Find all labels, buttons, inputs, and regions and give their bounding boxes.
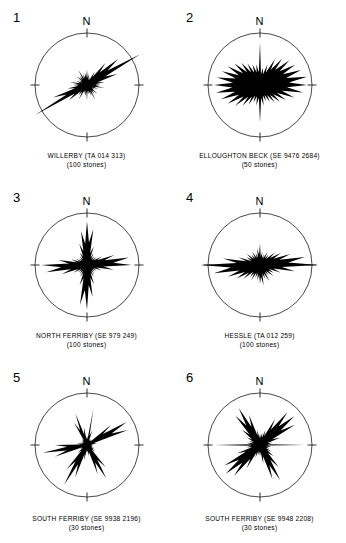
caption-site-5: SOUTH FERRIBY (SE 9938 2196) [0, 515, 173, 524]
rose-diagram-figure: 1 N WILLERBY (TA 014 313) (100 stones) 2… [0, 0, 346, 543]
rose-panel-4: 4 N HESSLE (TA 012 259) (100 stones) [173, 180, 346, 360]
rose-panel-6: 6 N SOUTH FERRIBY (SE 9948 2208) (30 sto… [173, 360, 346, 543]
rose-petal-shape [41, 221, 131, 309]
caption-count-4: (100 stones) [173, 341, 346, 350]
caption-count-6: (30 stones) [173, 524, 346, 533]
caption-count-5: (30 stones) [0, 524, 173, 533]
rose-petal-shape [42, 408, 127, 485]
rose-panel-2: 2 N ELLOUGHTON BECK (SE 9476 2684) (50 s… [173, 0, 346, 180]
rose-svg-2 [180, 27, 340, 143]
caption-site-2: ELLOUGHTON BECK (SE 9476 2684) [173, 152, 346, 161]
caption-site-1: WILLERBY (TA 014 313) [0, 152, 173, 161]
rose-svg-4 [180, 207, 340, 323]
north-label-2: N [173, 16, 346, 27]
rose-svg-5 [7, 387, 167, 503]
north-label-6: N [173, 376, 346, 387]
north-label-1: N [0, 16, 173, 27]
rose-chart-1 [7, 27, 167, 143]
rose-panel-1: 1 N WILLERBY (TA 014 313) (100 stones) [0, 0, 173, 180]
rose-svg-1 [7, 27, 167, 143]
rose-panel-5: 5 N SOUTH FERRIBY (SE 9938 2196) (30 sto… [0, 360, 173, 543]
caption-count-3: (100 stones) [0, 341, 173, 350]
rose-chart-6 [180, 387, 340, 503]
rose-chart-4 [180, 207, 340, 323]
north-label-5: N [0, 376, 173, 387]
caption-count-1: (100 stones) [0, 161, 173, 170]
caption-count-2: (50 stones) [173, 161, 346, 170]
rose-petal-shape [214, 408, 304, 480]
rose-petal-shape [200, 243, 318, 285]
rose-panel-3: 3 N NORTH FERRIBY (SE 979 249) (100 ston… [0, 180, 173, 360]
rose-svg-6 [180, 387, 340, 503]
caption-site-3: NORTH FERRIBY (SE 979 249) [0, 332, 173, 341]
caption-site-4: HESSLE (TA 012 259) [173, 332, 346, 341]
north-label-3: N [0, 196, 173, 207]
caption-site-6: SOUTH FERRIBY (SE 9948 2208) [173, 515, 346, 524]
north-label-4: N [173, 196, 346, 207]
rose-petal-shape [214, 42, 307, 122]
rose-chart-2 [180, 27, 340, 143]
rose-chart-3 [7, 207, 167, 323]
rose-chart-5 [7, 387, 167, 503]
rose-svg-3 [7, 207, 167, 323]
rose-petal-shape [35, 54, 140, 115]
